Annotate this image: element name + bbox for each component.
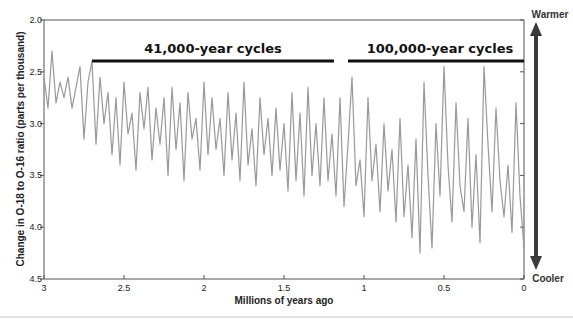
arrow-down-icon <box>530 256 542 270</box>
cycle-annotation-100k: 100,000-year cycles <box>348 41 524 61</box>
cycle-label-41k: 41,000-year cycles <box>144 41 282 56</box>
y-tick-label: 2.5 <box>29 67 42 77</box>
y-axis-title: Change in O-18 to O-16 ratio (parts per … <box>15 31 26 266</box>
y-tick-label: 3.0 <box>29 119 42 129</box>
y-tick-label: 4.0 <box>29 222 42 232</box>
x-tick-label: 2.5 <box>118 283 131 293</box>
cooler-label: Cooler <box>532 273 564 284</box>
isotope-series-line <box>44 51 524 253</box>
x-tick-label: 1.5 <box>278 283 291 293</box>
oxygen-isotope-chart: Change in O-18 to O-16 ratio (parts per … <box>0 0 573 322</box>
y-tick-label: 4.5 <box>29 274 42 284</box>
y-tick-label: 3.5 <box>29 170 42 180</box>
x-axis-ticks: 32.521.510.50 <box>41 275 526 293</box>
cycle-annotation-41k: 41,000-year cycles <box>92 41 334 61</box>
plot-frame <box>44 20 524 279</box>
x-tick-label: 3 <box>41 283 46 293</box>
x-tick-label: 0 <box>521 283 526 293</box>
y-tick-label: 2.0 <box>29 15 42 25</box>
bottom-divider <box>0 316 573 318</box>
x-axis-title: Millions of years ago <box>235 295 334 306</box>
cycle-label-100k: 100,000-year cycles <box>367 41 514 56</box>
x-tick-label: 1 <box>361 283 366 293</box>
warmer-label: Warmer <box>532 9 569 20</box>
arrow-up-icon <box>530 22 542 36</box>
x-tick-label: 2 <box>201 283 206 293</box>
warmer-cooler-arrow: Warmer Cooler <box>530 9 569 284</box>
x-tick-label: 0.5 <box>438 283 451 293</box>
